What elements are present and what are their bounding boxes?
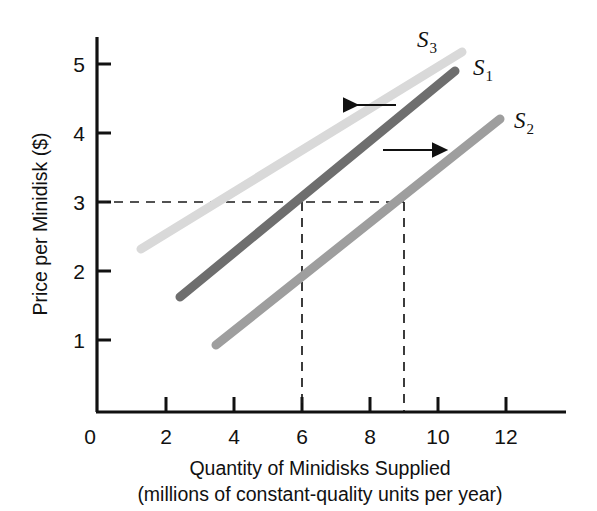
chart-canvas: 5 4 3 2 1 0 2 4 6 8 10 12 (0, 0, 597, 511)
curve-label-s3-subscript: 3 (430, 40, 438, 56)
x-tick-label-8: 8 (364, 425, 376, 448)
y-axis-title: Price per Minidisk ($) (29, 132, 51, 315)
x-axis-title: Quantity of Minidisks Supplied (189, 457, 450, 479)
curve-label-s2-letter: S (514, 108, 526, 133)
curve-label-s3-letter: S (417, 27, 429, 52)
x-tick-label-2: 2 (160, 425, 172, 448)
y-tick-label-3: 3 (73, 191, 85, 214)
x-tick-label-4: 4 (228, 425, 240, 448)
y-tick-label-4: 4 (73, 122, 85, 145)
x-tick-label-6: 6 (296, 425, 308, 448)
x-axis-ticks (166, 397, 506, 412)
x-tick-label-12: 12 (494, 425, 517, 448)
curve-label-s3: S3 (417, 27, 437, 56)
curve-label-s1-letter: S (473, 55, 485, 80)
x-axis-subtitle: (millions of constant-quality units per … (137, 483, 502, 505)
x-tick-label-10: 10 (426, 425, 449, 448)
curve-label-s1-subscript: 1 (486, 68, 494, 84)
y-tick-label-2: 2 (73, 260, 85, 283)
y-tick-label-1: 1 (73, 329, 85, 352)
curve-label-s2: S2 (514, 108, 534, 137)
curve-label-s1: S1 (473, 55, 493, 84)
y-axis-tick-labels: 5 4 3 2 1 (73, 53, 85, 352)
y-tick-label-5: 5 (73, 53, 85, 76)
curve-label-s2-subscript: 2 (527, 121, 535, 137)
supply-curves (141, 52, 500, 345)
x-tick-label-0: 0 (84, 425, 96, 448)
x-axis-tick-labels: 0 2 4 6 8 10 12 (84, 425, 518, 448)
supply-curve-figure: 5 4 3 2 1 0 2 4 6 8 10 12 (0, 0, 597, 511)
